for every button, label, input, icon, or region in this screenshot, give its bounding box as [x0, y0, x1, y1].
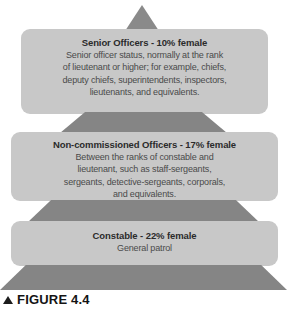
- pyramid-connector-upper: [60, 112, 227, 133]
- tier-body-line: General patrol: [11, 242, 278, 254]
- figure-pyramid-diagram: Senior Officers - 10% female Senior offi…: [0, 0, 287, 312]
- pyramid-connector-lower: [28, 200, 259, 222]
- tier-body-line: Senior officer status, normally at the r…: [21, 49, 268, 61]
- tier-body-line: deputy chiefs, superintendents, inspecto…: [21, 74, 268, 86]
- pyramid-apex-triangle-icon: [125, 5, 159, 31]
- pyramid-tier-constable: Constable - 22% female General patrol: [11, 221, 278, 266]
- tier-body-line: Between the ranks of constable and: [11, 151, 278, 163]
- tier-body-non-commissioned-officers: Between the ranks of constable and lieut…: [11, 151, 278, 201]
- tier-body-constable: General patrol: [11, 242, 278, 254]
- caption-triangle-icon: [3, 296, 13, 304]
- tier-body-line: sergeants, detective-sergeants, corporal…: [11, 176, 278, 188]
- pyramid-base-trapezoid: [0, 265, 287, 290]
- pyramid-tier-senior-officers: Senior Officers - 10% female Senior offi…: [21, 29, 268, 114]
- pyramid-tier-non-commissioned-officers: Non-commissioned Officers - 17% female B…: [11, 132, 278, 201]
- tier-title-senior-officers: Senior Officers - 10% female: [21, 36, 268, 49]
- tier-body-line: lieutenant, such as staff-sergeants,: [11, 163, 278, 175]
- caption-label: FIGURE 4.4: [17, 292, 90, 307]
- tier-body-line: lieutenants, and equivalents.: [21, 86, 268, 98]
- tier-body-line: and equivalents.: [11, 188, 278, 200]
- tier-body-senior-officers: Senior officer status, normally at the r…: [21, 49, 268, 99]
- tier-title-non-commissioned-officers: Non-commissioned Officers - 17% female: [11, 138, 278, 151]
- tier-body-line: of lieutenant or higher; for example, ch…: [21, 61, 268, 73]
- tier-title-constable: Constable - 22% female: [11, 229, 278, 242]
- figure-caption: FIGURE 4.4: [3, 292, 90, 307]
